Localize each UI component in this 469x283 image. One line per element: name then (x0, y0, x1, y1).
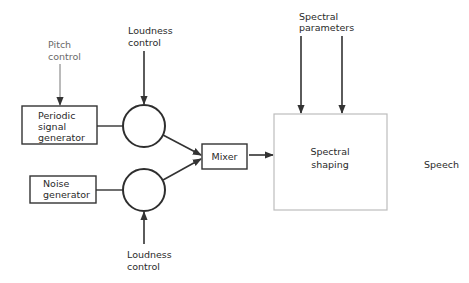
spectral-parameters-label: Spectral parameters (299, 11, 354, 33)
speech-synthesis-diagram: Pitch control Periodic signal generator … (0, 0, 469, 283)
amp-top-to-mixer-arrow (163, 135, 201, 155)
loudness-bottom-line1: Loudness (127, 249, 172, 260)
periodic-signal-generator-box: Periodic signal generator (22, 106, 97, 144)
noise-line1: Noise (43, 178, 70, 189)
loudness-bottom-line2: control (127, 261, 160, 272)
noise-generator-box: Noise generator (30, 176, 96, 203)
amp-bottom-to-mixer-arrow (163, 159, 201, 180)
spectral-shaping-box: Spectral shaping (274, 114, 387, 210)
loudness-control-top-label: Loudness control (128, 25, 173, 48)
spectral-params-line1: Spectral (299, 11, 338, 22)
loudness-control-bottom-label: Loudness control (127, 249, 172, 272)
loudness-top-line1: Loudness (128, 25, 173, 36)
noise-line2: generator (43, 189, 90, 200)
spectral-params-line2: parameters (299, 22, 354, 33)
pitch-control-line2: control (48, 51, 81, 62)
speech-output-label: Speech (424, 159, 459, 170)
loudness-amplifier-top (123, 105, 165, 147)
mixer-box: Mixer (202, 144, 247, 169)
pitch-control-label: Pitch control (48, 39, 81, 62)
spectral-shaping-line1: Spectral (310, 146, 349, 157)
periodic-line1: Periodic (38, 110, 76, 121)
spectral-shaping-line2: shaping (311, 159, 349, 170)
loudness-amplifier-bottom (123, 169, 165, 211)
periodic-line3: generator (38, 132, 85, 143)
periodic-line2: signal (38, 121, 66, 132)
pitch-control-line1: Pitch (48, 39, 71, 50)
loudness-top-line2: control (128, 37, 161, 48)
mixer-label: Mixer (212, 151, 238, 162)
